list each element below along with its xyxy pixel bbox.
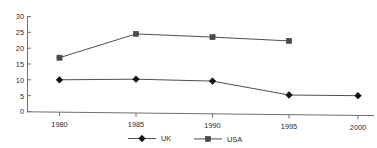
y-tick-label: 5 bbox=[20, 92, 24, 101]
data-point-uk bbox=[209, 78, 216, 85]
data-point-uk bbox=[355, 92, 362, 99]
y-tick-label: 10 bbox=[16, 76, 24, 85]
x-tick-label: 1995 bbox=[281, 122, 297, 131]
y-tick-labels: 30 25 20 15 10 5 0 bbox=[16, 12, 24, 116]
legend-marker-square-icon bbox=[205, 136, 210, 141]
data-point-uk bbox=[133, 76, 140, 83]
data-point-usa bbox=[210, 35, 215, 40]
legend-item-usa[interactable]: USA bbox=[194, 135, 242, 144]
x-tick-label: 1980 bbox=[51, 120, 67, 129]
x-tick-labels: 1980 1985 1990 1995 2000 bbox=[51, 120, 366, 132]
y-tick-label: 25 bbox=[16, 28, 24, 37]
x-axis bbox=[28, 112, 375, 120]
y-tick-label: 30 bbox=[16, 12, 24, 21]
x-tick-label: 1985 bbox=[128, 120, 144, 129]
data-point-usa bbox=[286, 38, 291, 43]
y-axis bbox=[28, 16, 32, 113]
y-tick-label: 20 bbox=[16, 44, 24, 53]
y-tick-label: 0 bbox=[20, 107, 24, 116]
chart-canvas: 30 25 20 15 10 5 0 1980 1985 1990 1995 2… bbox=[0, 0, 377, 148]
data-point-uk bbox=[286, 92, 293, 99]
chart-legend: UK USA bbox=[128, 134, 242, 143]
x-tick-label: 2000 bbox=[350, 123, 366, 132]
data-point-uk bbox=[56, 76, 63, 83]
x-tick-label: 1990 bbox=[204, 121, 220, 130]
y-tick-label: 15 bbox=[16, 60, 24, 69]
line-chart: 30 25 20 15 10 5 0 1980 1985 1990 1995 2… bbox=[0, 0, 377, 148]
legend-label-uk: UK bbox=[161, 134, 171, 143]
data-point-usa bbox=[133, 31, 138, 36]
legend-item-uk[interactable]: UK bbox=[128, 134, 171, 143]
legend-label-usa: USA bbox=[227, 135, 242, 144]
series-uk bbox=[56, 76, 361, 99]
data-point-usa bbox=[57, 55, 62, 60]
legend-marker-diamond-icon bbox=[139, 135, 146, 142]
series-usa bbox=[57, 31, 292, 60]
